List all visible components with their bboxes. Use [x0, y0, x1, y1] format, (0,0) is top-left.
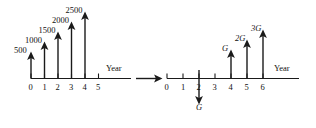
- right-tick-label-6: 6: [261, 83, 265, 92]
- right-down-flow-label: G: [196, 103, 202, 112]
- right-tick-label-3: 3: [213, 83, 217, 92]
- right-up-flow-label-1: 2G: [235, 34, 245, 43]
- right-tick-label-5: 5: [245, 83, 249, 92]
- right-up-flow-label-2: 3G: [251, 24, 261, 33]
- right-axis-ticks: [167, 74, 263, 79]
- right-axis-label: Year: [274, 64, 290, 73]
- right-tick-label-0: 0: [165, 83, 169, 92]
- right-tick-label-2: 2: [197, 83, 201, 92]
- right-cash-flow-diagram: 0 1 2 3 4 5 6 G G 2G 3G Year: [0, 0, 316, 128]
- right-tick-label-4: 4: [229, 83, 233, 92]
- right-tick-label-1: 1: [181, 83, 185, 92]
- right-up-flow-label-0: G: [222, 44, 228, 53]
- figure-root: 500 1000 1500 2000 2500 0 1 2 3 4 5 Year: [0, 0, 316, 128]
